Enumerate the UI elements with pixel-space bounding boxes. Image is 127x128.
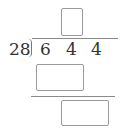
division-bracket (28, 39, 32, 57)
product-answer-box[interactable] (36, 64, 84, 91)
dividend-digit-ones: 4 (91, 40, 102, 58)
remainder-answer-box[interactable] (61, 100, 109, 126)
dividend-digit-hundreds: 6 (40, 40, 51, 58)
subtraction-line (31, 96, 115, 97)
dividend-digit-tens: 4 (66, 40, 77, 58)
quotient-answer-box[interactable] (61, 8, 83, 36)
